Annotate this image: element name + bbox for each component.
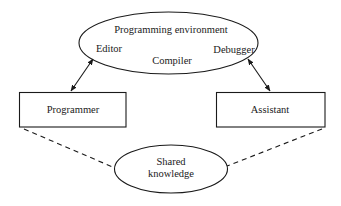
programmer-label: Programmer — [47, 105, 100, 116]
assistant-shared-dashed-line — [227, 129, 322, 166]
assistant-environment-arrow — [248, 59, 270, 91]
debugger-label: Debugger — [213, 45, 254, 56]
editor-label: Editor — [96, 44, 122, 55]
shared-knowledge-line2: knowledge — [148, 169, 194, 180]
programmer-environment-arrow — [71, 59, 93, 91]
shared-knowledge-line1: Shared — [156, 157, 185, 168]
programmer-shared-dashed-line — [24, 129, 115, 168]
compiler-label: Compiler — [152, 56, 192, 67]
assistant-label: Assistant — [251, 105, 290, 116]
programming-environment-title: Programming environment — [114, 25, 227, 36]
